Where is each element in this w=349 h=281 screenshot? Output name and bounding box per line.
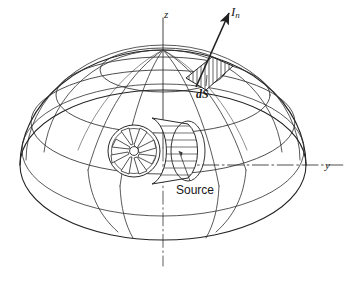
axis-label-z: z — [164, 9, 168, 20]
source-face-hub — [130, 147, 139, 156]
figure-canvas — [0, 0, 349, 281]
source-fan-face — [108, 125, 160, 177]
area-element-label: dS — [196, 88, 209, 100]
source-label: Source — [176, 184, 214, 196]
axis-label-y: y — [325, 160, 330, 171]
intensity-label: In — [231, 5, 240, 18]
intensity-subscript: n — [235, 10, 240, 20]
radiometry-hemisphere-figure: z y In dS Source — [0, 0, 349, 281]
